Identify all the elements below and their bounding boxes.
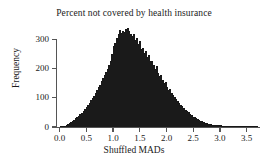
x-axis-tick-label: 0.5 [71,133,101,143]
y-axis-tick-label: 0 [17,123,49,132]
y-axis-tick [52,39,57,40]
histogram-bars [57,28,260,127]
x-axis-tick-label: 2.0 [152,133,182,143]
y-axis-tick [52,126,57,127]
plot-area [57,28,260,127]
x-axis-tick-label: 1.5 [125,133,155,143]
x-axis-tick [139,128,140,132]
y-axis-spine [56,39,57,128]
x-axis-tick-label: 3.0 [205,133,235,143]
x-axis-tick [219,128,220,132]
chart-title: Percent not covered by health insurance [0,8,268,19]
x-axis-tick [166,128,167,132]
histogram-figure: Percent not covered by health insurance … [0,0,268,165]
y-axis-tick-label: 200 [17,64,49,73]
x-axis-tick-label: 3.5 [232,133,262,143]
x-axis-tick [246,128,247,132]
y-axis-tick-label: 300 [17,35,49,44]
y-axis-tick [52,68,57,69]
y-axis-label: Frequency [11,33,21,103]
x-axis-tick-label: 2.5 [178,133,208,143]
x-axis-tick [112,128,113,132]
x-axis-tick-label: 0.0 [45,133,75,143]
x-axis-tick-label: 1.0 [98,133,128,143]
x-axis-label: Shuffled MADs [0,145,268,156]
x-axis-tick [59,128,60,132]
y-axis-tick [52,97,57,98]
x-axis-tick [86,128,87,132]
y-axis-tick-label: 100 [17,93,49,102]
x-axis-tick [193,128,194,132]
